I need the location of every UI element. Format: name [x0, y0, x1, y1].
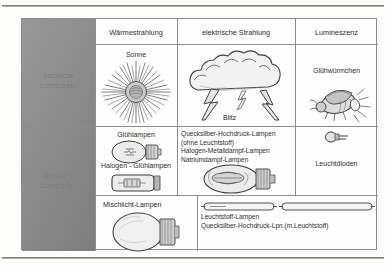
bottom-right-line-1: Leuchtstoff-Lampen [201, 213, 328, 222]
bottom-right-lines: Leuchtstoff-Lampen Quecksilber-Hochdruck… [201, 213, 328, 230]
label-halogen-gluehlampen: Halogen - Glühlampen [95, 161, 177, 171]
label-leuchtdioden: Leuchtdioden [295, 159, 378, 169]
document-page: natürliche Lichtquellen künstliche Licht… [0, 0, 386, 266]
row-header-artificial-line2: Lichtquellen [22, 181, 95, 191]
artificial-elektrisch-line-3: Halogen-Metalldampf-Lampen [181, 147, 276, 156]
grid-vline-col1 [177, 19, 178, 195]
row-header-artificial: künstliche Lichtquellen [22, 171, 95, 191]
row-header-natural-line1: natürliche [22, 71, 95, 81]
bottom-right-line-2: Quecksilber-Hochdruck-Lpn.(m.Leuchtstoff… [201, 222, 328, 231]
fluorescent-tube-icon-2 [279, 201, 375, 212]
fluorescent-tube-icon-1 [201, 201, 277, 212]
light-sources-table: natürliche Lichtquellen künstliche Licht… [21, 18, 377, 250]
column-header-elektrisch: elektrische Strahlung [177, 28, 295, 37]
metal-halide-lamp-icon [202, 162, 276, 196]
grid-hline-rows [22, 126, 378, 127]
column-header-lumineszenz: Lumineszenz [295, 28, 378, 37]
lightning-cloud-icon [180, 50, 292, 122]
label-blitz: Blitz [223, 113, 236, 123]
grid-vline-col2 [295, 19, 296, 195]
page-rule-top [2, 5, 384, 7]
page-rule-bottom [2, 257, 384, 259]
sun-icon [100, 59, 172, 125]
mixed-light-lamp-icon [110, 209, 180, 255]
led-icon [324, 131, 350, 143]
column-header-waerme: Wärmestrahlung [95, 28, 177, 37]
row-header-column: natürliche Lichtquellen künstliche Licht… [22, 19, 95, 251]
row-header-artificial-line1: künstliche [22, 171, 95, 181]
artificial-elektrisch-lines: Quecksilber-Hochdruck-Lampen (ohne Leuch… [181, 130, 276, 164]
grid-vline-bottom [197, 195, 198, 251]
artificial-elektrisch-line-1: Quecksilber-Hochdruck-Lampen [181, 130, 276, 139]
label-gluehwuermchen: Glühwürmchen [295, 66, 378, 76]
firefly-icon [310, 81, 376, 123]
grid-hline-header [95, 44, 378, 45]
row-header-natural: natürliche Lichtquellen [22, 71, 95, 91]
artificial-elektrisch-line-2: (ohne Leuchtstoff) [181, 139, 276, 148]
row-header-natural-line2: Lichtquellen [22, 81, 95, 91]
halogen-lamp-icon [108, 171, 164, 195]
